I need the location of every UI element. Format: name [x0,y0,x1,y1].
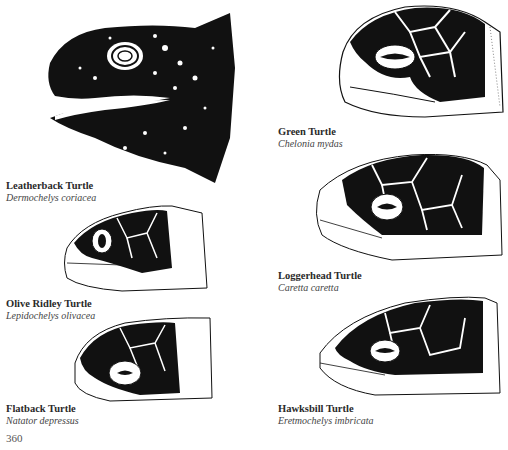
common-name: Flatback Turtle [6,403,79,415]
scientific-name: Natator depressus [6,415,79,427]
common-name: Olive Ridley Turtle [6,298,95,310]
common-name: Green Turtle [278,126,343,138]
green-turtle-head-illustration [335,2,505,120]
caption-leatherback: Leatherback Turtle Dermochelys coriacea [6,180,96,204]
loggerhead-head-illustration [312,150,507,262]
caption-loggerhead: Loggerhead Turtle Caretta caretta [278,270,362,294]
leatherback-head-illustration [35,8,235,183]
caption-green: Green Turtle Chelonia mydas [278,126,343,150]
hawksbill-head-illustration [315,293,505,398]
common-name: Hawksbill Turtle [278,403,373,415]
caption-flatback: Flatback Turtle Natator depressus [6,403,79,427]
common-name: Leatherback Turtle [6,180,96,192]
scientific-name: Chelonia mydas [278,138,343,150]
scientific-name: Eretmochelys imbricata [278,415,373,427]
flatback-head-illustration [70,313,215,403]
page-number: 360 [6,432,23,444]
caption-hawksbill: Hawksbill Turtle Eretmochelys imbricata [278,403,373,427]
common-name: Loggerhead Turtle [278,270,362,282]
olive-ridley-head-illustration [62,203,212,293]
